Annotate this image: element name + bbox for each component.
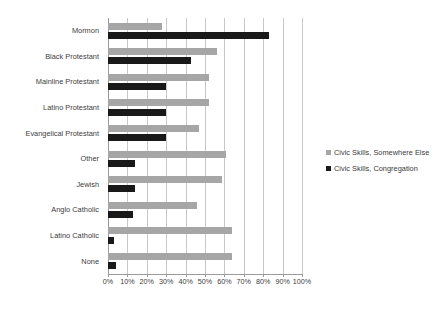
legend: Civic Skills, Somewhere Else Civic Skill… bbox=[326, 148, 446, 180]
category-label: Latino Protestant bbox=[0, 95, 104, 121]
bar-somewhere-else bbox=[108, 227, 232, 234]
category-label: Latino Catholic bbox=[0, 223, 104, 249]
bar-congregation bbox=[108, 134, 166, 141]
category-label: Evangelical Protestant bbox=[0, 120, 104, 146]
x-tick-label: 70% bbox=[237, 277, 251, 286]
plot-area bbox=[108, 18, 302, 274]
bar-row bbox=[108, 44, 302, 70]
x-tick-label: 60% bbox=[217, 277, 231, 286]
bar-row bbox=[108, 18, 302, 44]
bar-row bbox=[108, 223, 302, 249]
bar-somewhere-else bbox=[108, 151, 226, 158]
civic-skills-bar-chart: Mormon Black Protestant Mainline Protest… bbox=[0, 0, 447, 318]
bar-congregation bbox=[108, 262, 116, 269]
category-label: Mormon bbox=[0, 18, 104, 44]
x-tick-label: 40% bbox=[178, 277, 192, 286]
bar-row bbox=[108, 172, 302, 198]
bar-somewhere-else bbox=[108, 176, 222, 183]
x-tick-label: 100% bbox=[293, 277, 311, 286]
x-axis-tick-labels: 0%10%20%30%40%50%60%70%80%90%100% bbox=[108, 277, 302, 291]
bar-somewhere-else bbox=[108, 202, 197, 209]
bar-somewhere-else bbox=[108, 74, 209, 81]
category-label: Anglo Catholic bbox=[0, 197, 104, 223]
x-tick-label: 30% bbox=[159, 277, 173, 286]
bar-congregation bbox=[108, 185, 135, 192]
x-tick-label: 20% bbox=[140, 277, 154, 286]
category-label: Mainline Protestant bbox=[0, 69, 104, 95]
bar-rows bbox=[108, 18, 302, 274]
bar-row bbox=[108, 146, 302, 172]
bar-row bbox=[108, 120, 302, 146]
x-tick-label: 10% bbox=[120, 277, 134, 286]
bar-congregation bbox=[108, 211, 133, 218]
bar-congregation bbox=[108, 57, 191, 64]
bar-somewhere-else bbox=[108, 253, 232, 260]
bar-somewhere-else bbox=[108, 23, 162, 30]
bar-row bbox=[108, 69, 302, 95]
x-tick-label: 0% bbox=[103, 277, 113, 286]
x-tick-label: 50% bbox=[198, 277, 212, 286]
legend-item-somewhere-else: Civic Skills, Somewhere Else bbox=[326, 148, 446, 157]
gridline bbox=[302, 18, 303, 274]
bar-congregation bbox=[108, 237, 114, 244]
bar-congregation bbox=[108, 83, 166, 90]
bar-congregation bbox=[108, 32, 269, 39]
bar-somewhere-else bbox=[108, 48, 217, 55]
legend-label: Civic Skills, Somewhere Else bbox=[334, 148, 429, 157]
category-label: Black Protestant bbox=[0, 44, 104, 70]
bar-row bbox=[108, 197, 302, 223]
legend-label: Civic Skills, Congregation bbox=[334, 164, 418, 173]
legend-swatch-icon bbox=[326, 166, 331, 171]
bar-somewhere-else bbox=[108, 125, 199, 132]
bar-congregation bbox=[108, 109, 166, 116]
bar-row bbox=[108, 95, 302, 121]
bar-congregation bbox=[108, 160, 135, 167]
legend-item-congregation: Civic Skills, Congregation bbox=[326, 164, 446, 173]
bar-somewhere-else bbox=[108, 99, 209, 106]
category-label: Other bbox=[0, 146, 104, 172]
legend-swatch-icon bbox=[326, 150, 331, 155]
x-tick-label: 90% bbox=[275, 277, 289, 286]
bar-row bbox=[108, 248, 302, 274]
x-tick-label: 80% bbox=[256, 277, 270, 286]
category-label: None bbox=[0, 248, 104, 274]
category-axis-labels: Mormon Black Protestant Mainline Protest… bbox=[0, 18, 104, 274]
category-label: Jewish bbox=[0, 172, 104, 198]
